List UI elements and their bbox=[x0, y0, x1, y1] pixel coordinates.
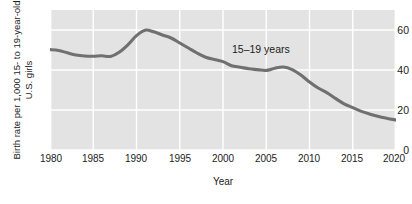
y-axis-title-line-2: U.S. girls bbox=[23, 1, 35, 160]
x-tick-1990: 1990 bbox=[125, 153, 147, 164]
y-tick-60: 60 bbox=[397, 25, 409, 36]
chart-figure: Birth rate per 1,000 15- to 19-year-old … bbox=[0, 0, 412, 204]
y-axis-title-line-1: Birth rate per 1,000 15- to 19-year-old bbox=[11, 1, 22, 160]
x-tick-2015: 2015 bbox=[341, 153, 363, 164]
y-axis-title-text: Birth rate per 1,000 15- to 19-year-old … bbox=[11, 1, 35, 160]
y-tick-20: 20 bbox=[397, 105, 409, 116]
plot-area bbox=[50, 10, 396, 150]
x-tick-2005: 2005 bbox=[255, 153, 277, 164]
series-annotation-label: 15–19 years bbox=[232, 43, 290, 55]
x-tick-1980: 1980 bbox=[40, 153, 62, 164]
x-tick-2010: 2010 bbox=[298, 153, 320, 164]
x-tick-2000: 2000 bbox=[212, 153, 234, 164]
x-tick-2020: 2020 bbox=[383, 153, 405, 164]
gridlines-vertical bbox=[51, 10, 396, 150]
x-axis-title: Year bbox=[50, 176, 396, 187]
y-tick-40: 40 bbox=[397, 65, 409, 76]
chart-canvas bbox=[50, 10, 396, 150]
x-tick-1985: 1985 bbox=[82, 153, 104, 164]
x-tick-1995: 1995 bbox=[169, 153, 191, 164]
y-axis-title: Birth rate per 1,000 15- to 19-year-old … bbox=[0, 0, 46, 160]
